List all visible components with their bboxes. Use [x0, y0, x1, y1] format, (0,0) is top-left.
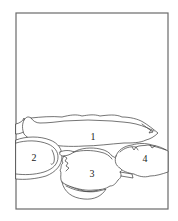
region-2-label: 2: [32, 153, 37, 163]
diagram-canvas: [0, 0, 178, 221]
region-2-shape: [16, 137, 62, 179]
region-1-label: 1: [91, 132, 96, 142]
region-4-label: 4: [143, 154, 148, 164]
region-3-label: 3: [90, 169, 95, 179]
